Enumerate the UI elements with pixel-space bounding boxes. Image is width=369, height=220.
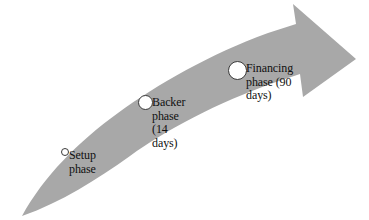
process-arrow-diagram: Setup phase Backer phase (14 days) Finan… — [0, 0, 369, 220]
arrow-body-path — [22, 4, 356, 216]
milestone-marker-icon — [228, 61, 247, 80]
milestone-marker-icon — [138, 95, 153, 110]
milestone-financing-label: Financing phase (90 days) — [246, 62, 293, 103]
milestone-marker-icon — [61, 148, 69, 156]
milestone-backer-label: Backer phase (14 days) — [152, 96, 185, 150]
milestone-setup-label: Setup phase — [69, 149, 96, 176]
